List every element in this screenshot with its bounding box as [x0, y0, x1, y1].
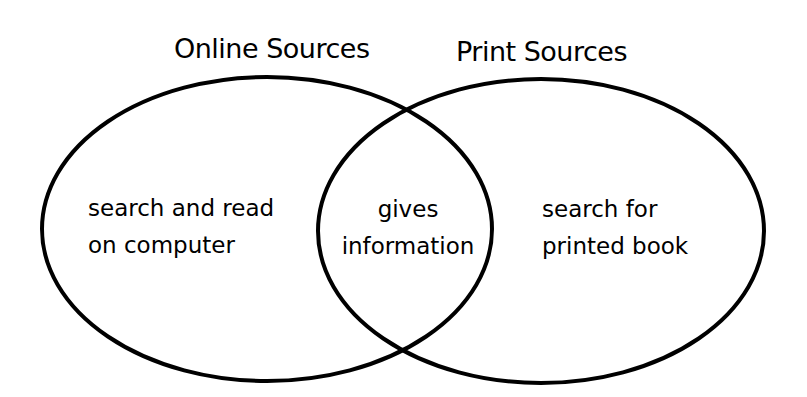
print-only-line-2: printed book: [542, 228, 688, 265]
overlap-line-2: information: [330, 228, 486, 265]
print-sources-title: Print Sources: [456, 38, 627, 65]
overlap-line-1: gives: [330, 191, 486, 228]
overlap-region: gives information: [330, 191, 486, 265]
print-only-region: search for printed book: [542, 191, 688, 265]
print-only-line-1: search for: [542, 191, 688, 228]
online-only-line-1: search and read: [88, 190, 274, 227]
online-sources-title: Online Sources: [174, 35, 369, 62]
venn-diagram: Online Sources Print Sources search and …: [0, 0, 807, 397]
online-only-line-2: on computer: [88, 227, 274, 264]
online-only-region: search and read on computer: [88, 190, 274, 264]
